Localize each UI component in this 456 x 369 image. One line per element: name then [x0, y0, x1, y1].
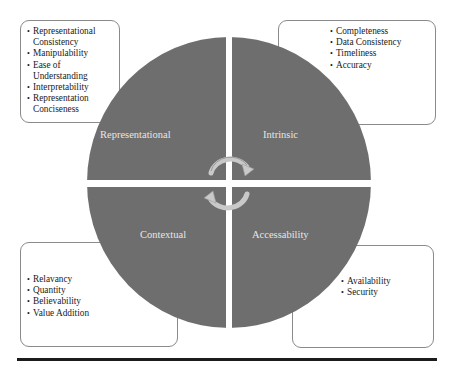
bottom-rule-divider [17, 358, 437, 361]
horizontal-divider [87, 180, 371, 187]
quadrant-label-intrinsic: Intrinsic [263, 129, 298, 140]
list-item: Quantity [27, 285, 89, 296]
contextual-dimensions-list: Relavancy Quantity Believability Value A… [27, 274, 89, 319]
quadrant-circle: Representational Intrinsic Contextual Ac… [87, 37, 371, 328]
quadrant-label-contextual: Contextual [140, 229, 186, 240]
quadrant-label-representational: Representational [100, 129, 171, 140]
list-item: Believability [27, 296, 89, 307]
quadrant-circle-graphic [87, 37, 371, 328]
list-item: Value Addition [27, 308, 89, 319]
list-item: Completeness [330, 26, 401, 37]
list-item: Relavancy [27, 274, 89, 285]
quadrant-label-accessability: Accessability [252, 229, 309, 240]
